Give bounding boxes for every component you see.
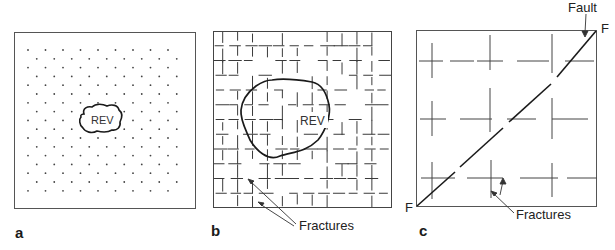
- rev-label-a: REV: [91, 114, 114, 126]
- rev-label-b: REV: [300, 114, 325, 128]
- fractures-label-b: Fractures: [299, 218, 354, 233]
- fracture-arrows-c: [491, 178, 514, 213]
- panel-label-a: a: [15, 224, 23, 241]
- fault-arrow: [582, 14, 588, 37]
- fault-end-label-bottom: F: [405, 200, 413, 215]
- panel-label-b: b: [211, 222, 220, 239]
- fault-end-label-top: F: [601, 21, 609, 36]
- panel-c: [417, 14, 598, 213]
- sparse-fractures: [419, 34, 597, 199]
- fractures-label-c: Fractures: [516, 207, 571, 222]
- panel-a: REV: [15, 33, 196, 209]
- fracture-arrows-b: [248, 179, 296, 226]
- fault-label: Fault: [568, 0, 597, 15]
- panel-b: REV: [213, 31, 392, 226]
- panel-label-c: c: [419, 222, 427, 239]
